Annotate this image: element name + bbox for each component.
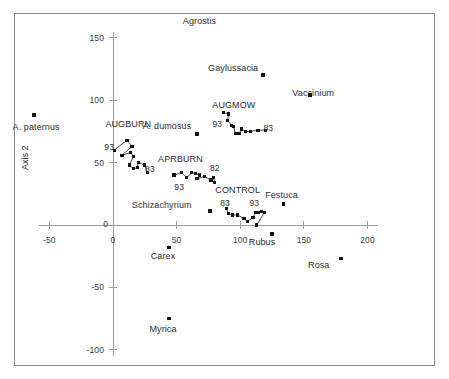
- y-tick-label-150: 150: [90, 34, 104, 43]
- species-label-myrica: Myrica: [149, 325, 176, 334]
- year-label-aprburn-start: 93: [174, 183, 184, 192]
- species-label-agrostis: Agrostis: [183, 17, 216, 26]
- year-label-augmow-start: 93: [213, 120, 223, 129]
- species-label-gaylussacia: Gaylussacia: [208, 64, 258, 73]
- species-label-vaccinium: Vaccinium: [292, 89, 334, 98]
- year-label-aprburn-end: 82: [210, 164, 220, 173]
- species-label-rubus: Rubus: [249, 238, 276, 247]
- species-label-a-paternus: A. paternus: [13, 123, 60, 132]
- y-tick-label-100: 100: [90, 96, 104, 105]
- species-label-carex: Carex: [151, 252, 176, 261]
- y-tick-label--50: -50: [91, 283, 104, 292]
- y-tick-label--100: -100: [87, 346, 104, 355]
- year-label-augmow-end: 83: [263, 124, 273, 133]
- cluster-label-control: CONTROL: [215, 186, 260, 195]
- x-tick-label-100: 100: [233, 236, 247, 245]
- year-label-control-start: 83: [220, 199, 230, 208]
- axis-ticks: [49, 38, 367, 350]
- figure-container: Axis 2 -50050100150200-100-50050100150AU…: [0, 0, 449, 379]
- cluster-label-aprburn: APRBURN: [158, 155, 203, 164]
- year-label-augburn-start: 93: [104, 143, 114, 152]
- year-label-augburn-end: 83: [145, 165, 155, 174]
- x-tick-label-0: 0: [111, 236, 116, 245]
- y-tick-label-0: 0: [103, 220, 108, 229]
- y-axis-title: Axis 2: [20, 145, 30, 170]
- year-label-control-end: 93: [249, 199, 259, 208]
- cluster-label-augmow: AUGMOW: [212, 101, 255, 110]
- axis-lines: [39, 32, 377, 356]
- x-tick-label-50: 50: [172, 236, 182, 245]
- species-label-a-dumosus: A. dumosus: [143, 122, 192, 131]
- x-tick-label-200: 200: [360, 236, 374, 245]
- x-tick-label--50: -50: [43, 236, 56, 245]
- species-label-festuca: Festuca: [265, 191, 298, 200]
- species-label-schizachyrium: Schizachyrium: [132, 201, 192, 210]
- species-label-rosa: Rosa: [308, 261, 329, 270]
- x-tick-label-150: 150: [297, 236, 311, 245]
- y-tick-label-50: 50: [94, 159, 104, 168]
